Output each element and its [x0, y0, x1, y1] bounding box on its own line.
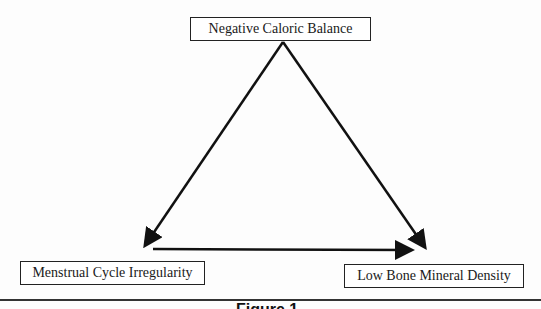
node-menstrual-cycle-irregularity: Menstrual Cycle Irregularity: [20, 261, 205, 285]
node-low-bone-mineral-density: Low Bone Mineral Density: [344, 264, 524, 288]
figure-caption: Figure 1: [236, 302, 298, 309]
arrow-top-to-right: [283, 42, 424, 246]
node-label: Menstrual Cycle Irregularity: [32, 265, 192, 281]
node-label: Negative Caloric Balance: [209, 21, 353, 37]
arrow-top-to-left: [146, 42, 283, 244]
node-label: Low Bone Mineral Density: [357, 268, 511, 284]
diagram-canvas: Negative Caloric Balance Menstrual Cycle…: [0, 0, 541, 309]
arrow-left-to-right: [153, 249, 410, 250]
horizontal-rule: [0, 299, 541, 301]
node-negative-caloric-balance: Negative Caloric Balance: [190, 17, 371, 41]
